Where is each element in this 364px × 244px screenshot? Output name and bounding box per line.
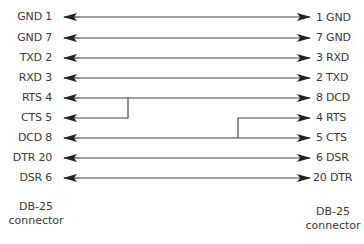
caption-line: connector [8,214,64,228]
left-pin-label: DTR 20 [13,151,52,164]
left-pin-label: DCD 8 [18,131,52,144]
right-connector-caption: DB-25 connector [302,205,364,233]
right-pin-label: 5 CTS [316,131,347,144]
left-pin-label: GND 1 [17,10,52,23]
wire-rts4-branch [238,118,310,138]
caption-line: DB-25 [302,205,364,219]
left-pin-label: GND 7 [17,31,52,44]
right-pin-label: 3 RXD [316,51,349,64]
left-pin-label: RTS 4 [22,91,52,104]
right-pin-label: 4 RTS [316,111,346,124]
right-pin-label: 8 DCD [316,91,350,104]
left-pin-label: TXD 2 [20,51,52,64]
right-pin-label: 7 GND [316,31,351,44]
null-modem-wiring-diagram: GND 1 GND 7 TXD 2 RXD 3 RTS 4 CTS 5 DCD … [0,0,364,244]
wire-cts5-branch [64,98,128,118]
left-pin-label: DSR 6 [19,171,52,184]
left-connector-caption: DB-25 connector [8,200,64,228]
right-pin-label: 20 DTR [313,171,352,184]
caption-line: connector [302,219,364,233]
left-pin-label: RXD 3 [19,71,52,84]
right-pin-label: 6 DSR [316,151,349,164]
right-pin-label: 2 TXD [316,71,348,84]
left-pin-label: CTS 5 [21,111,52,124]
right-pin-label: 1 GND [316,11,351,24]
caption-line: DB-25 [8,200,64,214]
